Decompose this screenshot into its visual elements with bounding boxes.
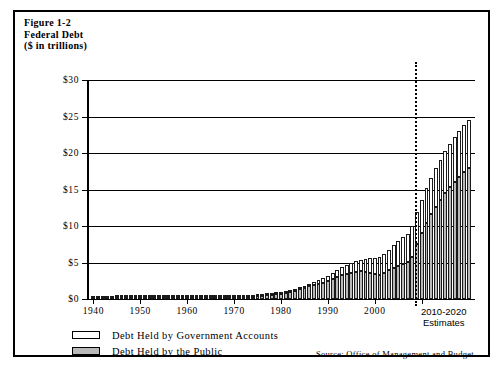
- bar-1978: [270, 293, 274, 299]
- bar-segment-public: [293, 291, 297, 299]
- bar-segment-government-accounts: [467, 120, 471, 168]
- bar-segment-public: [204, 297, 208, 299]
- bar-segment-government-accounts: [457, 131, 461, 177]
- bar-segment-public: [387, 270, 391, 299]
- bar-segment-public: [307, 286, 311, 299]
- bar-1976: [260, 294, 264, 299]
- estimates-label-line-1: 2010-2020: [421, 306, 466, 317]
- bar-segment-government-accounts: [443, 151, 447, 193]
- bar-segment-public: [382, 273, 386, 299]
- bar-2016: [448, 144, 452, 299]
- bar-2017: [453, 137, 457, 299]
- bar-segment-government-accounts: [410, 226, 414, 257]
- estimate-divider-line: [415, 62, 417, 306]
- chart-legend: Debt Held by Government Accounts Debt He…: [72, 327, 278, 359]
- bar-segment-public: [166, 297, 170, 299]
- x-axis-tick: [187, 299, 188, 304]
- bar-2002: [382, 254, 386, 299]
- bar-segment-public: [265, 295, 269, 299]
- bar-1982: [288, 291, 292, 299]
- bar-segment-government-accounts: [331, 273, 335, 280]
- gridline: [87, 190, 475, 191]
- bar-1984: [298, 288, 302, 299]
- bar-segment-public: [439, 200, 443, 299]
- bar-segment-public: [312, 285, 316, 299]
- bar-1975: [256, 295, 260, 299]
- bar-segment-public: [270, 295, 274, 299]
- bar-2013: [434, 168, 438, 299]
- legend-item-label: Debt Held by the Public: [112, 346, 223, 357]
- x-axis-tick-label: 2010-2020Estimates: [421, 306, 466, 328]
- bar-1951: [143, 297, 147, 299]
- bar-segment-public: [298, 289, 302, 299]
- bar-segment-public: [209, 297, 213, 299]
- source-note: Source: Office of Management and Budget: [316, 349, 474, 359]
- figure-title-line-1: Figure 1-2: [24, 17, 87, 29]
- y-axis-tick: [82, 80, 87, 81]
- bar-segment-public: [401, 264, 405, 299]
- bar-segment-government-accounts: [382, 254, 386, 273]
- bar-1962: [195, 297, 199, 299]
- bar-segment-public: [368, 273, 372, 299]
- bar-segment-public: [443, 193, 447, 299]
- chart-plot-area: $0$5$10$15$20$25$30 19401950196019701980…: [87, 80, 475, 299]
- y-axis-tick: [82, 226, 87, 227]
- bar-segment-government-accounts: [340, 267, 344, 275]
- bar-1957: [171, 297, 175, 299]
- bar-1953: [152, 297, 156, 299]
- bar-segment-public: [396, 266, 400, 300]
- figure-title-line-2: Federal Debt: [24, 29, 87, 41]
- bar-segment-public: [181, 297, 185, 299]
- x-axis-tick-label: 2000: [364, 306, 385, 316]
- bar-segment-government-accounts: [359, 260, 363, 272]
- bar-1997: [359, 260, 363, 299]
- bar-segment-public: [148, 297, 152, 299]
- legend-swatch-icon: [72, 331, 100, 339]
- bar-1948: [129, 297, 133, 299]
- bar-1956: [166, 297, 170, 299]
- x-axis-tick: [93, 299, 94, 304]
- bar-1992: [335, 270, 339, 299]
- bar-1969: [227, 296, 231, 299]
- y-axis-tick: [82, 117, 87, 118]
- bar-segment-public: [96, 297, 100, 299]
- bar-segment-public: [288, 292, 292, 299]
- bar-segment-public: [378, 275, 382, 299]
- bar-1979: [274, 293, 278, 299]
- bar-1967: [218, 297, 222, 299]
- bar-segment-public: [129, 297, 133, 299]
- y-axis-tick-label: $20: [63, 148, 79, 158]
- bar-2015: [443, 151, 447, 299]
- bar-segment-public: [326, 281, 330, 299]
- bar-2004: [392, 245, 396, 299]
- bar-segment-public: [448, 187, 452, 299]
- bar-segment-government-accounts: [364, 259, 368, 272]
- estimates-label-line-2: Estimates: [421, 317, 466, 328]
- bar-segment-public: [157, 297, 161, 299]
- bar-segment-government-accounts: [373, 258, 377, 274]
- legend-item-label: Debt Held by Government Accounts: [112, 330, 278, 341]
- gridline: [87, 153, 475, 154]
- bar-1952: [148, 297, 152, 299]
- x-axis-tick: [140, 299, 141, 304]
- x-axis-tick: [375, 299, 376, 304]
- bar-segment-public: [124, 297, 128, 299]
- bar-1996: [354, 261, 358, 299]
- bar-segment-public: [195, 297, 199, 299]
- bar-2011: [425, 188, 429, 299]
- bar-segment-public: [462, 172, 466, 299]
- bar-segment-public: [340, 275, 344, 299]
- bar-1989: [321, 278, 325, 299]
- x-axis-tick-label: 1950: [130, 306, 151, 316]
- bar-segment-government-accounts: [396, 241, 400, 265]
- bar-segment-public: [457, 177, 461, 299]
- bar-1980: [279, 292, 283, 299]
- bar-segment-government-accounts: [462, 125, 466, 172]
- legend-item-public: Debt Held by the Public: [72, 343, 278, 359]
- bar-segment-public: [331, 279, 335, 299]
- bar-segment-public: [317, 284, 321, 299]
- bar-2010: [420, 200, 424, 299]
- bar-2006: [401, 237, 405, 299]
- bar-segment-public: [190, 297, 194, 299]
- bar-1999: [368, 258, 372, 299]
